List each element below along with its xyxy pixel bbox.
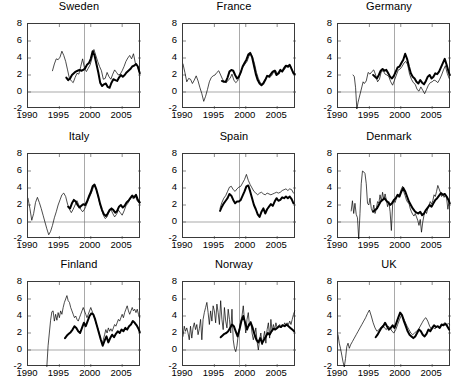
series-line-thin (338, 310, 450, 367)
x-tick-label: 1990 (171, 367, 192, 378)
x-tick-label: 1990 (171, 109, 192, 120)
y-tick-label: 4 (327, 310, 332, 320)
x-tick-label: 1990 (16, 367, 37, 378)
x-axis-labels: 1990199520002005 (155, 239, 313, 253)
y-axis-labels: -202468 (0, 23, 25, 108)
x-tick-label: 2005 (111, 239, 132, 250)
panel-title: Finland (0, 258, 158, 271)
y-tick-label: 0 (327, 86, 332, 96)
plot-area (337, 281, 450, 366)
plot-area (27, 281, 140, 366)
panel-title: Norway (155, 258, 313, 271)
y-tick-label: 4 (17, 310, 22, 320)
y-tick-label: 8 (172, 276, 177, 286)
x-tick-label: 2000 (389, 239, 410, 250)
panel-title: Sweden (0, 0, 158, 13)
x-tick-label: 1995 (203, 109, 224, 120)
y-axis-labels: -202468 (310, 281, 335, 366)
y-tick-label: 0 (17, 86, 22, 96)
panel-title: Italy (0, 130, 158, 143)
y-tick-label: 0 (172, 86, 177, 96)
y-tick-label: 0 (172, 216, 177, 226)
series-line-thick (68, 185, 140, 216)
x-axis-labels: 1990199520002005 (155, 367, 313, 381)
panel-spain: Spain-2024681990199520002005 (155, 130, 313, 259)
y-axis-labels: -202468 (0, 153, 25, 238)
x-tick-label: 1990 (16, 109, 37, 120)
y-axis-labels: -202468 (155, 23, 180, 108)
y-tick-label: 8 (17, 18, 22, 28)
y-tick-label: 4 (172, 52, 177, 62)
plot-area (182, 23, 295, 108)
x-axis-labels: 1990199520002005 (155, 109, 313, 123)
y-axis-labels: -202468 (310, 23, 335, 108)
x-tick-label: 2000 (234, 109, 255, 120)
x-tick-label: 1995 (358, 239, 379, 250)
x-tick-label: 1995 (48, 109, 69, 120)
x-tick-label: 2005 (266, 367, 287, 378)
y-tick-label: 4 (17, 182, 22, 192)
y-tick-label: 6 (172, 35, 177, 45)
x-tick-label: 2005 (266, 109, 287, 120)
y-tick-label: 8 (17, 276, 22, 286)
y-tick-label: 4 (172, 310, 177, 320)
y-tick-label: 6 (172, 293, 177, 303)
x-tick-label: 2005 (111, 109, 132, 120)
y-tick-label: 4 (327, 182, 332, 192)
plot-area (337, 23, 450, 108)
x-tick-label: 1990 (326, 239, 347, 250)
series-line-thin (28, 185, 139, 234)
y-axis-labels: -202468 (310, 153, 335, 238)
y-tick-label: 8 (327, 276, 332, 286)
series-line-thin (353, 61, 449, 109)
y-tick-label: 2 (172, 199, 177, 209)
y-tick-label: 0 (172, 344, 177, 354)
panel-germany: Germany-2024681990199520002005 (310, 0, 468, 129)
y-tick-label: 0 (327, 216, 332, 226)
y-tick-label: 8 (327, 148, 332, 158)
x-axis-labels: 1990199520002005 (0, 367, 158, 381)
series-line-thick (222, 53, 295, 85)
y-tick-label: 0 (17, 216, 22, 226)
panel-title: Germany (310, 0, 468, 13)
panel-denmark: Denmark-2024681990199520002005 (310, 130, 468, 259)
y-tick-label: 6 (327, 293, 332, 303)
panel-france: France-2024681990199520002005 (155, 0, 313, 129)
y-axis-labels: -202468 (0, 281, 25, 366)
y-tick-label: 8 (327, 18, 332, 28)
panel-italy: Italy-2024681990199520002005 (0, 130, 158, 259)
series-canvas (338, 282, 451, 367)
x-tick-label: 1995 (48, 367, 69, 378)
y-tick-label: 2 (17, 327, 22, 337)
plot-area (337, 153, 450, 238)
panel-finland: Finland-2024681990199520002005 (0, 258, 158, 387)
y-tick-label: 2 (327, 327, 332, 337)
series-canvas (183, 282, 296, 367)
series-canvas (183, 154, 296, 239)
plot-area (182, 153, 295, 238)
x-tick-label: 2000 (79, 239, 100, 250)
panel-title: France (155, 0, 313, 13)
y-tick-label: 4 (327, 52, 332, 62)
series-canvas (338, 24, 451, 109)
y-tick-label: 8 (172, 18, 177, 28)
x-tick-label: 1995 (358, 109, 379, 120)
panel-uk: UK-2024681990199520002005 (310, 258, 468, 387)
y-tick-label: 2 (172, 69, 177, 79)
x-axis-labels: 1990199520002005 (0, 239, 158, 253)
x-tick-label: 1990 (16, 239, 37, 250)
x-tick-label: 2000 (389, 367, 410, 378)
y-tick-label: 2 (17, 199, 22, 209)
series-canvas (183, 24, 296, 109)
plot-area (27, 153, 140, 238)
y-tick-label: 6 (17, 35, 22, 45)
y-axis-labels: -202468 (155, 153, 180, 238)
x-tick-label: 2005 (421, 367, 442, 378)
y-tick-label: 4 (17, 52, 22, 62)
series-line-thin (220, 174, 293, 208)
x-tick-label: 2005 (421, 239, 442, 250)
x-tick-label: 1990 (171, 239, 192, 250)
series-line-thin (351, 171, 449, 239)
y-tick-label: 0 (327, 344, 332, 354)
y-tick-label: 6 (327, 165, 332, 175)
